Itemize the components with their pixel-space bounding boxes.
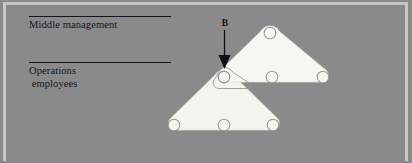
node-mm-right bbox=[317, 71, 329, 83]
arrow-label-b: B bbox=[215, 18, 235, 28]
node-mm-center bbox=[266, 71, 278, 83]
label-middle-management-text: Middle management bbox=[29, 17, 171, 32]
node-mm-apex bbox=[264, 27, 276, 39]
label-operations-employees: Operations employees bbox=[29, 62, 171, 90]
node-shared-boundary-spanner bbox=[218, 71, 230, 83]
node-op-left bbox=[168, 119, 180, 131]
node-op-center bbox=[218, 119, 230, 131]
node-op-right bbox=[267, 119, 279, 131]
label-operations-employees-line2: employees bbox=[29, 78, 171, 91]
label-operations-employees-line1: Operations bbox=[29, 63, 171, 78]
figure-container: B Middle management Operations employees bbox=[0, 0, 412, 163]
label-middle-management: Middle management bbox=[29, 16, 171, 32]
